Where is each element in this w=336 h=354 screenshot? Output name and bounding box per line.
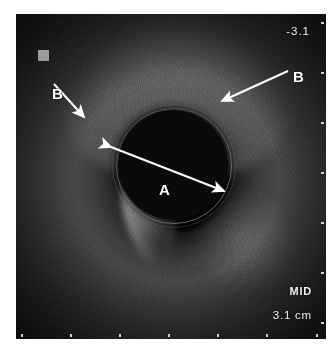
scale-tick-bottom — [21, 334, 23, 337]
scale-tick-right — [321, 272, 324, 274]
annotation-label-b-right: B — [293, 69, 304, 84]
calibration-square-marker — [38, 50, 49, 61]
scale-tick-bottom — [217, 334, 219, 337]
scale-tick-bottom — [70, 334, 72, 337]
scale-tick-right — [321, 72, 324, 74]
scale-tick-right — [321, 122, 324, 124]
scale-tick-right — [321, 22, 324, 24]
scale-tick-right — [321, 222, 324, 224]
depth-scale-readout: 3.1 cm — [273, 309, 312, 321]
screenshot-root: A B B -3.1 MID 3.1 cm — [0, 0, 336, 354]
ultrasound-scan-frame: A B B -3.1 MID 3.1 cm — [16, 14, 326, 339]
segment-label: MID — [289, 285, 312, 297]
depth-readout-top: -3.1 — [286, 25, 310, 37]
annotation-label-b-left: B — [52, 86, 63, 101]
scale-tick-bottom — [266, 334, 268, 337]
scale-tick-bottom — [316, 334, 318, 337]
annotation-label-a: A — [159, 182, 170, 197]
lumen-anechoic-core — [118, 110, 228, 220]
scale-tick-right — [321, 172, 324, 174]
scale-tick-right — [321, 322, 324, 324]
scale-tick-bottom — [119, 334, 121, 337]
scale-tick-bottom — [168, 334, 170, 337]
